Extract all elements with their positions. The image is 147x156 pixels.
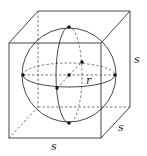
right-point bbox=[113, 73, 116, 76]
back-point bbox=[80, 60, 83, 63]
radius-label: r bbox=[86, 74, 92, 87]
bottom-point bbox=[67, 121, 70, 124]
sphere-in-cube-diagram: r s s s bbox=[0, 0, 147, 156]
meridian-front bbox=[56, 27, 69, 123]
sphere-points bbox=[21, 25, 116, 124]
front-point bbox=[55, 86, 58, 89]
center-point bbox=[67, 73, 70, 76]
edge-bottom-label: s bbox=[51, 140, 57, 153]
left-point bbox=[21, 73, 24, 76]
edge-right-label: s bbox=[134, 53, 140, 66]
top-point bbox=[67, 25, 70, 28]
meridian-back bbox=[69, 27, 82, 123]
edge-depth-label: s bbox=[118, 121, 124, 134]
